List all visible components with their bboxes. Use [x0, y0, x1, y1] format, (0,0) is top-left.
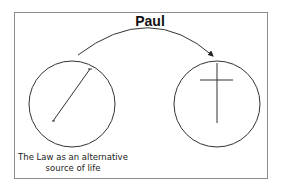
left-circle [29, 61, 115, 147]
left-node-caption: The Law as an alternative source of life [18, 152, 128, 174]
diagonal-line-icon [52, 69, 92, 121]
caption-line-1: The Law as an alternative [18, 152, 128, 163]
diagram-title: Paul [120, 13, 180, 29]
caption-line-2: source of life [18, 163, 128, 174]
cross-icon [200, 63, 233, 123]
curved-arrow [78, 28, 213, 56]
